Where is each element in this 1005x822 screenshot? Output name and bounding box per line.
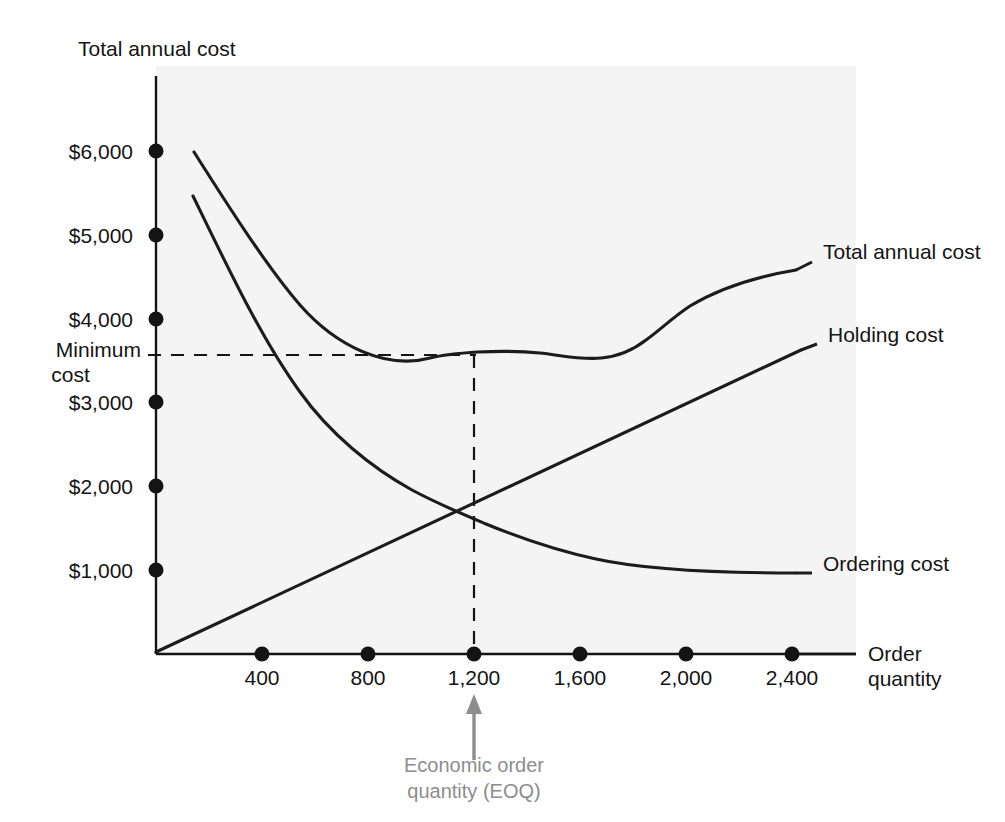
- x-tick-dot-400: [255, 647, 270, 662]
- y-tick-dot-4000: [149, 312, 164, 327]
- x-tick-dot-1600: [573, 647, 588, 662]
- x-tick-label-2000: 2,000: [636, 665, 736, 690]
- x-axis-title-line1: Order: [868, 641, 922, 666]
- chart-svg: [0, 0, 1005, 822]
- x-tick-label-800: 800: [318, 665, 418, 690]
- total-cost-label-leader: [796, 262, 812, 270]
- x-tick-dot-2000: [679, 647, 694, 662]
- y-tick-dot-2000: [149, 479, 164, 494]
- eoq-annotation-line1: Economic order: [354, 752, 594, 778]
- y-tick-label-2000: $2,000: [0, 474, 133, 499]
- y-tick-label-5000: $5,000: [0, 223, 133, 248]
- x-tick-dot-800: [361, 647, 376, 662]
- ordering-cost-curve: [193, 196, 796, 573]
- y-axis-title: Total annual cost: [78, 36, 236, 61]
- total-annual-cost-curve-label: Total annual cost: [823, 239, 981, 264]
- y-tick-dot-5000: [149, 228, 164, 243]
- x-tick-label-1200: 1,200: [424, 665, 524, 690]
- y-tick-label-4000: $4,000: [0, 307, 133, 332]
- holding-cost-curve-label: Holding cost: [828, 322, 944, 347]
- holding-cost-label-leader: [801, 344, 817, 350]
- x-tick-label-1600: 1,600: [530, 665, 630, 690]
- y-tick-dot-1000: [149, 563, 164, 578]
- minimum-cost-label-line1: Minimum: [0, 337, 141, 362]
- eoq-arrow-icon: [466, 694, 482, 760]
- ordering-cost-curve-label: Ordering cost: [823, 551, 949, 576]
- x-axis-title-line2: quantity: [868, 666, 942, 691]
- y-tick-label-1000: $1,000: [0, 558, 133, 583]
- x-tick-label-400: 400: [212, 665, 312, 690]
- holding-cost-line: [156, 350, 801, 652]
- y-tick-dot-6000: [149, 144, 164, 159]
- x-tick-label-2400: 2,400: [742, 665, 842, 690]
- y-tick-label-6000: $6,000: [0, 139, 133, 164]
- minimum-cost-label-line2: cost: [0, 362, 141, 387]
- chart-canvas: Total annual cost $6,000 $5,000 $4,000 $…: [0, 0, 1005, 822]
- eoq-annotation-line2: quantity (EOQ): [354, 778, 594, 804]
- y-tick-label-3000: $3,000: [0, 390, 133, 415]
- total-annual-cost-curve: [194, 152, 796, 361]
- y-tick-dot-3000: [149, 395, 164, 410]
